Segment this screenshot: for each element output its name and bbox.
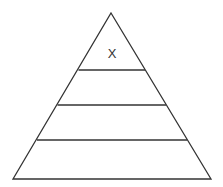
top-level-label: X [108,46,117,61]
pyramid-diagram: X [0,0,223,187]
pyramid-outline [13,13,211,179]
